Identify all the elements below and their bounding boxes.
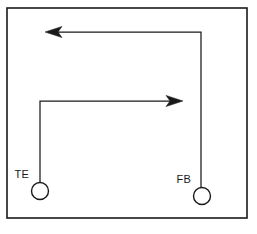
figure-root: TE FB <box>0 0 257 234</box>
fb-node-label: FB <box>177 173 191 185</box>
fb-node-circle[interactable] <box>194 188 211 205</box>
loop-diagram: TE FB <box>0 0 257 234</box>
te-node-circle[interactable] <box>32 183 49 200</box>
te-node-label: TE <box>15 168 29 180</box>
